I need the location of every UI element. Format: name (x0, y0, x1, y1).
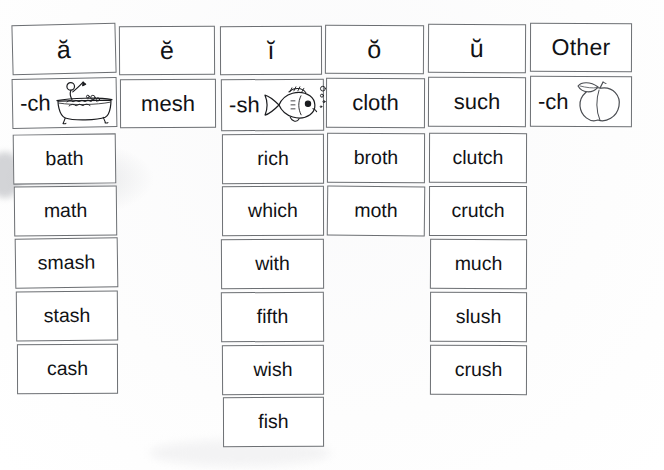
word-card[interactable]: clutch (429, 133, 527, 183)
word-sort-board: ă ĕ ĭ ŏ ŭ Other -ch (0, 0, 664, 470)
word-card-label: cash (47, 359, 88, 379)
word-card[interactable]: bath (13, 133, 117, 184)
word-card-label: crush (455, 360, 503, 380)
word-card[interactable]: fish (223, 397, 324, 447)
word-card[interactable]: much (430, 239, 527, 290)
key-card-label: -sh (229, 94, 260, 116)
word-card-label: clutch (452, 148, 503, 168)
column-header-other[interactable]: Other (530, 23, 632, 72)
key-card-short-i[interactable]: -sh (221, 79, 324, 132)
word-card[interactable]: smash (15, 237, 119, 288)
word-card-label: moth (354, 201, 398, 221)
bathtub-icon (52, 80, 115, 125)
word-card[interactable]: crutch (429, 186, 527, 236)
fish-icon (261, 83, 327, 127)
column-header-label: ŏ (367, 37, 381, 62)
column-header-short-u[interactable]: ŭ (428, 24, 526, 74)
peach-icon (570, 78, 628, 124)
key-card-label: cloth (352, 92, 399, 114)
word-card-label: stash (44, 306, 91, 326)
key-card-short-u[interactable]: such (428, 77, 526, 127)
column-header-short-o[interactable]: ŏ (325, 25, 424, 75)
word-card[interactable]: slush (430, 292, 527, 342)
key-card-label: -ch (538, 90, 569, 112)
word-card[interactable]: wish (222, 345, 324, 396)
word-card[interactable]: math (14, 185, 118, 236)
word-card-label: math (44, 201, 88, 221)
column-header-label: Other (551, 36, 610, 59)
word-card-label: slush (456, 307, 502, 327)
column-header-label: ĭ (267, 38, 274, 63)
word-card-label: which (248, 201, 298, 221)
column-header-label: ă (57, 36, 72, 61)
key-card-short-a[interactable]: -ch (12, 77, 118, 129)
column-header-label: ĕ (160, 38, 174, 63)
word-card-label: fifth (257, 307, 289, 327)
key-card-label: -ch (20, 92, 51, 115)
word-card-label: crutch (451, 201, 504, 221)
word-card-label: wish (253, 360, 292, 380)
word-card-label: fish (258, 412, 288, 432)
word-card[interactable]: crush (430, 345, 527, 395)
key-card-short-o[interactable]: cloth (326, 78, 425, 128)
key-card-short-e[interactable]: mesh (120, 79, 216, 128)
word-card[interactable]: rich (222, 134, 324, 184)
key-card-label: mesh (141, 92, 195, 114)
word-card[interactable]: which (222, 186, 324, 236)
word-card-label: broth (354, 148, 399, 168)
word-card[interactable]: fifth (221, 292, 324, 343)
word-card-label: much (455, 254, 503, 274)
key-card-other[interactable]: -ch (530, 76, 632, 127)
word-card-label: with (255, 254, 290, 274)
word-card[interactable]: stash (16, 291, 118, 342)
word-card[interactable]: broth (327, 133, 425, 183)
column-header-short-e[interactable]: ĕ (119, 26, 215, 76)
column-header-label: ŭ (470, 36, 484, 61)
word-card[interactable]: with (221, 239, 324, 290)
word-card[interactable]: moth (327, 185, 426, 236)
word-card[interactable]: cash (17, 344, 118, 394)
word-card-label: bath (45, 149, 83, 169)
word-card-label: smash (38, 253, 96, 273)
word-card-label: rich (257, 149, 288, 169)
column-header-short-i[interactable]: ĭ (220, 26, 322, 75)
column-header-short-a[interactable]: ă (11, 23, 116, 76)
key-card-label: such (454, 91, 501, 113)
